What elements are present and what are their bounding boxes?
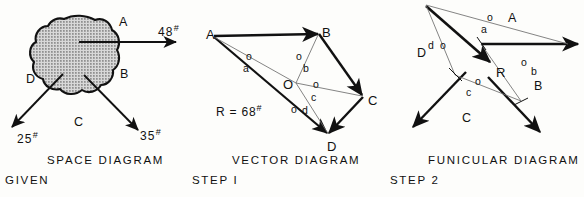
force-line-25 bbox=[12, 74, 63, 127]
space-label-b: B bbox=[120, 68, 129, 81]
vector-ray-oa-o: o bbox=[246, 51, 252, 62]
funicular-ray-oa-letter: a bbox=[481, 24, 487, 35]
vector-diagram-step: STEP I bbox=[192, 175, 238, 187]
force-label-48: 48# bbox=[158, 24, 179, 38]
vector-cd bbox=[329, 97, 363, 133]
force-48-magnitude: 48 bbox=[158, 25, 174, 39]
vector-vertex-a: A bbox=[206, 28, 215, 41]
vector-ray-od-o: o bbox=[291, 104, 297, 115]
funicular-ray-ob-letter: b bbox=[531, 66, 537, 77]
vector-bc bbox=[319, 34, 362, 95]
funicular-label-d: D bbox=[417, 47, 426, 60]
vector-vertex-b: B bbox=[322, 26, 331, 39]
vector-vertex-d: D bbox=[327, 140, 336, 153]
vector-ray-ob-o: o bbox=[296, 51, 302, 62]
vector-vertex-c: C bbox=[368, 94, 377, 107]
funicular-diagram-step: STEP 2 bbox=[390, 175, 440, 187]
force-line-35 bbox=[84, 75, 138, 130]
funicular-ray-oc-letter: c bbox=[466, 87, 471, 98]
funicular-ray-ob-o: o bbox=[521, 57, 527, 68]
vector-ray-od-letter: d bbox=[302, 105, 308, 116]
force-label-25: 25# bbox=[17, 131, 38, 145]
space-label-c: C bbox=[74, 116, 83, 129]
figure-vector-layer bbox=[0, 0, 584, 197]
funicular-resultant-label: R bbox=[496, 66, 505, 79]
vector-ab bbox=[214, 34, 318, 36]
vector-resultant-label: R = 68# bbox=[216, 104, 262, 118]
force-25-magnitude: 25 bbox=[17, 132, 33, 146]
funicular-force-25 bbox=[413, 72, 466, 127]
tick-c-d bbox=[449, 68, 462, 81]
force-label-35: 35# bbox=[140, 128, 161, 142]
force-35-unit: # bbox=[156, 127, 161, 137]
funicular-label-b: B bbox=[534, 80, 543, 93]
space-label-a: A bbox=[119, 16, 128, 29]
vector-ray-oa-letter: a bbox=[243, 63, 249, 74]
figure-canvas: A B C D 48# 35# 25# SPACE DIAGRAM GIVEN … bbox=[0, 0, 584, 197]
vector-ray-oc-o: o bbox=[313, 79, 319, 90]
ray-oc bbox=[296, 83, 362, 96]
vector-pole-o: O bbox=[283, 78, 293, 91]
vector-ray-ob-letter: b bbox=[303, 63, 309, 74]
funicular-label-c: C bbox=[462, 112, 471, 125]
funicular-ray-od-o: o bbox=[440, 40, 446, 51]
funicular-ray-od-letter: d bbox=[428, 40, 434, 51]
force-35-magnitude: 35 bbox=[140, 129, 156, 143]
force-48-unit: # bbox=[174, 23, 179, 33]
funicular-ray-oc-o: o bbox=[475, 76, 481, 87]
rigid-body-blob bbox=[30, 16, 119, 94]
string-oc bbox=[455, 75, 521, 101]
funicular-diagram-caption: FUNICULAR DIAGRAM bbox=[428, 155, 580, 167]
space-label-d: D bbox=[26, 73, 35, 86]
vector-diagram-caption: VECTOR DIAGRAM bbox=[232, 155, 360, 167]
funicular-ray-oa-o: o bbox=[487, 12, 493, 23]
force-25-unit: # bbox=[33, 130, 38, 140]
space-diagram-caption: SPACE DIAGRAM bbox=[47, 155, 164, 167]
space-diagram-step: GIVEN bbox=[5, 175, 49, 187]
vector-ray-oc-letter: c bbox=[311, 92, 316, 103]
vector-resultant-value: R = 68 bbox=[216, 105, 257, 119]
space-diagram-group bbox=[12, 16, 176, 130]
vector-resultant-unit: # bbox=[257, 103, 262, 113]
funicular-label-a: A bbox=[508, 12, 517, 25]
